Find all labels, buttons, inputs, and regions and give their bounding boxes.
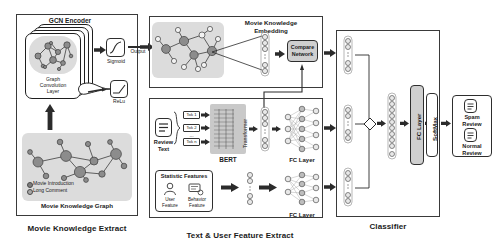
spam-review-icon: [464, 99, 477, 113]
fc-layer-static: [282, 170, 322, 210]
arrow-vector-to-fc-text: [272, 126, 281, 132]
review-text-label-line2: Text: [150, 146, 177, 152]
softmax-label: SoftMax: [431, 117, 438, 141]
arrow-token-2-to-bert: [201, 125, 210, 131]
normal-review-label-line1: Normal: [452, 143, 492, 149]
gcn-layer-label-line3: Layer: [25, 89, 81, 95]
arrow-text-branch-to-classifier: [324, 124, 336, 132]
user-feature-icon: [163, 182, 177, 196]
arrow-static-to-vector: [221, 183, 239, 192]
behavior-feature-label-line1: Behavior: [184, 197, 210, 202]
arrow-bert-to-vector: [249, 126, 258, 132]
classifier-fc-layer-label: FC Layer: [415, 114, 422, 140]
arrow-softmax-to-outputs: [441, 120, 451, 127]
user-feature-label-line2: Feature: [158, 203, 182, 208]
bert-label: BERT: [210, 156, 246, 163]
sigmoid-label: Sigmoid: [101, 59, 131, 65]
relu-feedback-connector: [74, 76, 114, 102]
compare-network-label-line2: Network: [287, 51, 318, 57]
user-feature-label-line1: User: [158, 197, 182, 202]
classifier-caption: Classifier: [336, 222, 440, 231]
movie-knowledge-extract-caption: Movie Knowledge Extract: [6, 224, 148, 233]
arrow-vector-to-classifier-fc: [400, 120, 409, 127]
behavior-feature-label-line2: Feature: [184, 203, 210, 208]
concat-operator-icon: [363, 117, 377, 131]
sigmoid-box: [106, 38, 125, 57]
arrow-token-1-to-bert: [201, 112, 210, 118]
movie-knowledge-graph-title: Movie Knowledge Graph: [22, 202, 132, 209]
review-text-token-brace: [173, 110, 182, 146]
legend-label-movie-introduction: Movie Introduction: [33, 181, 74, 187]
spam-review-label-line2: Review: [452, 121, 492, 127]
arrow-embedding-to-compare: [275, 50, 285, 58]
arrow-vector-to-fc-static: [259, 183, 277, 192]
arrow-concat-to-vector: [377, 120, 386, 127]
bert-output-vector: [259, 107, 271, 151]
compare-network-label-line1: Compare: [287, 44, 318, 50]
behavior-feature-icon: [188, 182, 204, 196]
embedding-title-line1: Movie Knowledge: [226, 19, 316, 26]
normal-review-label-line2: Review: [452, 150, 492, 156]
classifier-input-vector-static: [342, 168, 354, 206]
output-label: Output: [125, 49, 151, 55]
text-user-feature-extract-caption: Text & User Feature Extract: [155, 231, 325, 240]
arrow-embedding-to-classifier: [324, 49, 336, 57]
fc-layer-text-label: FC Layer: [282, 157, 322, 164]
token-1: Tok 1: [183, 111, 200, 119]
bert-transformer-label: Transformer: [242, 119, 248, 148]
token-2: Tok 2: [183, 124, 200, 132]
spam-review-label-line1: Spam: [452, 114, 492, 120]
token-n: Tok n: [183, 138, 200, 146]
movie-knowledge-graph: [24, 136, 128, 184]
classifier-input-vector-text: [342, 105, 354, 143]
arrow-graph-to-encoder: [45, 104, 55, 130]
gcn-inner-graph: [29, 36, 77, 74]
embedding-title-line2: Embedding: [226, 27, 316, 34]
legend-label-long-comment: Long Comment: [33, 188, 67, 194]
embedding-fan-lines: [212, 36, 264, 76]
arrow-gcn-to-sigmoid: [94, 46, 106, 54]
normal-review-icon: [464, 128, 477, 142]
static-feature-vector: [244, 170, 256, 206]
fc-layer-static-label: FC Layer: [282, 212, 322, 219]
classifier-concat-vector: [386, 93, 398, 159]
arrow-token-n-to-bert: [201, 139, 210, 145]
fc-layer-text: [282, 103, 322, 155]
review-text-icon: [155, 118, 172, 137]
classifier-input-vector-embedding: [342, 36, 354, 74]
bert-inner-detail: [212, 106, 244, 152]
statistic-features-title: Statistic Features: [155, 173, 213, 179]
arrow-static-branch-to-classifier: [324, 183, 336, 191]
